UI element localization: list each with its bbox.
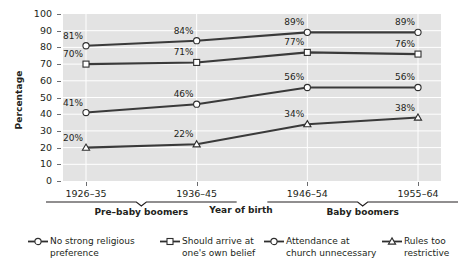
y-tick-mark bbox=[57, 164, 61, 165]
data-point-label: 70% bbox=[53, 49, 93, 59]
y-tick-label: 50 bbox=[18, 92, 52, 103]
legend-label: Rules toorestrictive bbox=[404, 236, 449, 259]
legend-label-line2: preference bbox=[50, 248, 135, 260]
circle-marker-icon bbox=[415, 29, 421, 35]
legend-label-line1: Rules too bbox=[404, 236, 449, 248]
legend-label-line2: one's own belief bbox=[182, 248, 255, 260]
square-marker-icon bbox=[83, 61, 89, 67]
data-point-label: 46% bbox=[164, 89, 204, 99]
square-marker-icon bbox=[415, 51, 421, 57]
y-tick-label: 70 bbox=[18, 58, 52, 69]
data-point-label: 89% bbox=[274, 17, 314, 27]
y-tick-label: 80 bbox=[18, 41, 52, 52]
legend-item[interactable]: Rules toorestrictive bbox=[382, 236, 470, 259]
circle-marker-icon bbox=[194, 38, 200, 44]
y-tick-label: 90 bbox=[18, 25, 52, 36]
x-tick-mark bbox=[307, 182, 308, 186]
circle-marker-icon bbox=[83, 43, 89, 49]
y-tick-mark bbox=[57, 81, 61, 82]
y-tick-label: 60 bbox=[18, 75, 52, 86]
y-tick-label: 0 bbox=[18, 175, 52, 186]
legend-label-line1: No strong religious bbox=[50, 236, 135, 248]
data-point-label: 76% bbox=[385, 39, 425, 49]
circle-marker-icon bbox=[304, 29, 310, 35]
data-point-label: 84% bbox=[164, 26, 204, 36]
x-tick-label: 1946–54 bbox=[262, 188, 352, 199]
legend-item[interactable]: Attendance atchurch unnecessary bbox=[264, 236, 382, 259]
triangle-marker-icon bbox=[382, 236, 402, 247]
y-tick-mark bbox=[57, 181, 61, 182]
chart-legend: No strong religiouspreferenceShould arri… bbox=[0, 230, 470, 266]
y-tick-label: 20 bbox=[18, 142, 52, 153]
y-tick-label: 100 bbox=[18, 8, 52, 19]
circle-marker-icon bbox=[415, 84, 421, 90]
circle-marker-icon bbox=[194, 101, 200, 107]
legend-label-line1: Should arrive at bbox=[182, 236, 255, 248]
data-point-label: 41% bbox=[53, 98, 93, 108]
data-point-label: 34% bbox=[274, 109, 314, 119]
legend-label: Attendance atchurch unnecessary bbox=[286, 236, 376, 259]
x-tick-mark bbox=[418, 182, 419, 186]
circle-marker-icon bbox=[304, 84, 310, 90]
data-point-label: 56% bbox=[274, 72, 314, 82]
legend-item[interactable]: Should arrive atone's own belief bbox=[160, 236, 264, 259]
x-tick-label: 1926–35 bbox=[41, 188, 131, 199]
x-tick-label: 1955–64 bbox=[373, 188, 463, 199]
y-tick-label: 10 bbox=[18, 158, 52, 169]
legend-label-line1: Attendance at bbox=[286, 236, 376, 248]
x-tick-mark bbox=[86, 182, 87, 186]
data-point-label: 38% bbox=[385, 103, 425, 113]
line-chart: Percentage 0102030405060708090100 1926–3… bbox=[0, 0, 470, 266]
legend-label: No strong religiouspreference bbox=[50, 236, 135, 259]
data-point-label: 20% bbox=[53, 133, 93, 143]
x-tick-mark bbox=[197, 182, 198, 186]
square-marker-icon bbox=[194, 59, 200, 65]
square-marker-icon bbox=[160, 236, 180, 247]
legend-label-line2: restrictive bbox=[404, 248, 449, 260]
data-point-label: 56% bbox=[385, 72, 425, 82]
legend-item[interactable]: No strong religiouspreference bbox=[28, 236, 158, 259]
circle-marker-icon bbox=[28, 236, 48, 247]
y-tick-label: 40 bbox=[18, 108, 52, 119]
data-point-label: 71% bbox=[164, 47, 204, 57]
data-point-label: 22% bbox=[164, 129, 204, 139]
y-tick-mark bbox=[57, 114, 61, 115]
data-point-label: 89% bbox=[385, 17, 425, 27]
circle-marker-icon bbox=[83, 109, 89, 115]
y-tick-label: 30 bbox=[18, 125, 52, 136]
x-tick-label: 1936–45 bbox=[152, 188, 242, 199]
y-tick-mark bbox=[57, 64, 61, 65]
legend-label: Should arrive atone's own belief bbox=[182, 236, 255, 259]
data-point-label: 77% bbox=[274, 37, 314, 47]
legend-label-line2: church unnecessary bbox=[286, 248, 376, 260]
x-axis-title: Year of birth bbox=[181, 205, 301, 215]
group-label: Baby boomers bbox=[283, 207, 443, 217]
square-marker-icon bbox=[304, 49, 310, 55]
y-tick-mark bbox=[57, 14, 61, 15]
circle-marker-icon bbox=[264, 236, 284, 247]
data-point-label: 81% bbox=[53, 31, 93, 41]
y-tick-mark bbox=[57, 148, 61, 149]
